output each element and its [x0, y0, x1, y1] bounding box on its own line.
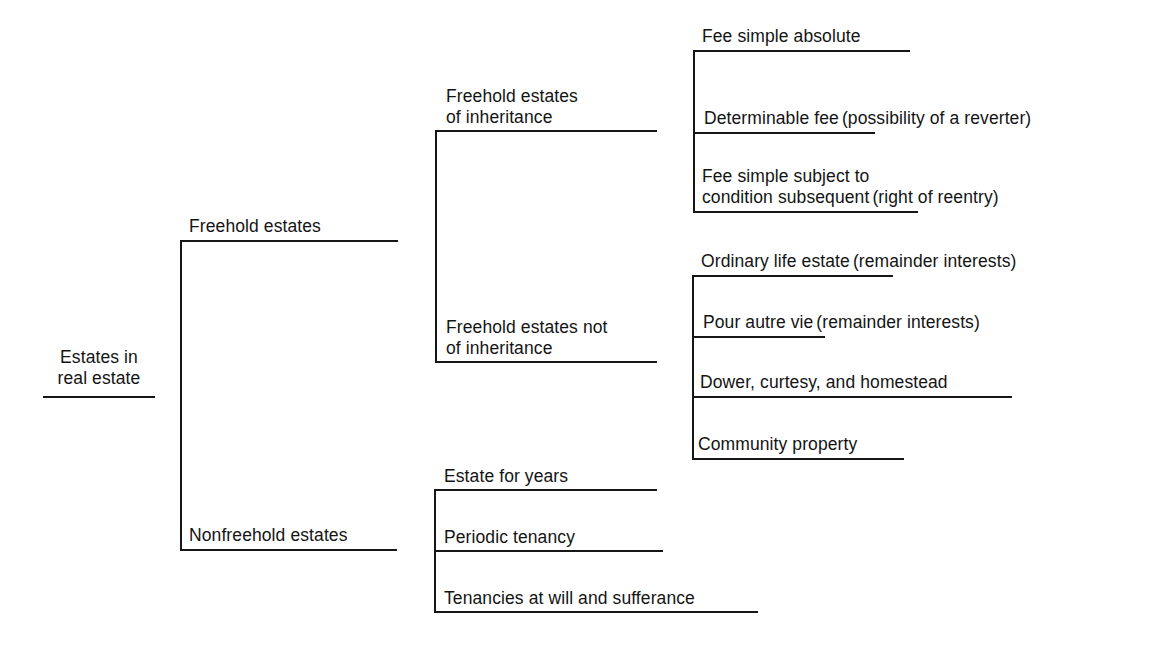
- fei-label-line2: of inheritance: [446, 107, 578, 128]
- freehold-children-connector: [435, 130, 437, 363]
- root-node: Estates in real estate: [42, 347, 156, 389]
- freehold-estates-underline: [180, 240, 398, 242]
- tenancies-at-will-label: Tenancies at will and sufferance: [444, 588, 695, 608]
- pour-autre-vie-underline: [692, 336, 825, 338]
- node-determinable-fee: Determinable fee(possibility of a revert…: [704, 108, 1031, 129]
- fee-simple-absolute-underline: [693, 50, 910, 52]
- estates-tree-diagram: Estates in real estate Freehold estates …: [0, 0, 1154, 646]
- node-fee-simple-absolute: Fee simple absolute: [702, 26, 861, 47]
- non-inheritance-children-connector: [692, 275, 694, 460]
- root-underline: [43, 396, 155, 398]
- periodic-tenancy-label: Periodic tenancy: [444, 527, 575, 547]
- feni-underline: [435, 361, 657, 363]
- dower-curtesy-homestead-label: Dower, curtesy, and homestead: [700, 372, 948, 392]
- pour-autre-vie-label: Pour autre vie: [703, 312, 813, 332]
- root-label-line2: real estate: [42, 368, 156, 389]
- pour-autre-vie-note: (remainder interests): [816, 312, 980, 332]
- freehold-estates-label: Freehold estates: [189, 216, 321, 236]
- fsscs-label-line1: Fee simple subject to: [702, 166, 999, 187]
- feni-label-line1: Freehold estates not: [446, 317, 608, 338]
- dower-curtesy-homestead-underline: [692, 396, 1012, 398]
- node-freehold-not-of-inheritance: Freehold estates not of inheritance: [446, 317, 608, 359]
- node-estate-for-years: Estate for years: [444, 466, 568, 487]
- node-pour-autre-vie: Pour autre vie(remainder interests): [703, 312, 980, 333]
- level1-connector: [180, 240, 182, 551]
- node-ordinary-life-estate: Ordinary life estate(remainder interests…: [701, 251, 1016, 272]
- ordinary-life-estate-underline: [692, 275, 893, 277]
- determinable-fee-underline: [693, 132, 875, 134]
- node-dower-curtesy-homestead: Dower, curtesy, and homestead: [700, 372, 948, 393]
- node-freehold-of-inheritance: Freehold estates of inheritance: [446, 86, 578, 128]
- fee-simple-absolute-label: Fee simple absolute: [702, 26, 861, 46]
- fei-underline: [435, 130, 657, 132]
- community-property-label: Community property: [698, 434, 857, 454]
- fsscs-underline: [693, 211, 918, 213]
- determinable-fee-label: Determinable fee: [704, 108, 839, 128]
- root-label-line1: Estates in: [42, 347, 156, 368]
- community-property-underline: [692, 458, 904, 460]
- nonfreehold-estates-underline: [180, 549, 397, 551]
- node-periodic-tenancy: Periodic tenancy: [444, 527, 575, 548]
- ordinary-life-estate-label: Ordinary life estate: [701, 251, 850, 271]
- estate-for-years-label: Estate for years: [444, 466, 568, 486]
- node-nonfreehold-estates: Nonfreehold estates: [189, 525, 348, 546]
- node-freehold-estates: Freehold estates: [189, 216, 321, 237]
- tenancies-at-will-underline: [434, 611, 758, 613]
- determinable-fee-note: (possibility of a reverter): [842, 108, 1031, 128]
- node-tenancies-at-will-and-sufferance: Tenancies at will and sufferance: [444, 588, 695, 609]
- ordinary-life-estate-note: (remainder interests): [853, 251, 1017, 271]
- feni-label-line2: of inheritance: [446, 338, 608, 359]
- estate-for-years-underline: [434, 489, 657, 491]
- fsscs-label-line2: condition subsequent: [702, 187, 869, 207]
- node-community-property: Community property: [698, 434, 857, 455]
- periodic-tenancy-underline: [434, 550, 663, 552]
- node-fee-simple-subject-to-condition: Fee simple subject to condition subseque…: [702, 166, 999, 208]
- fsscs-note: (right of reentry): [872, 187, 998, 207]
- nonfreehold-estates-label: Nonfreehold estates: [189, 525, 348, 545]
- fei-label-line1: Freehold estates: [446, 86, 578, 107]
